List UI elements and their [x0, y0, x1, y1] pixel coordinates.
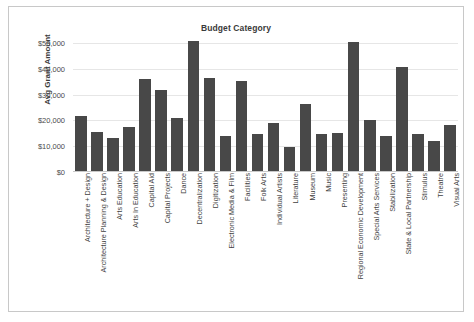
bar-series [73, 43, 458, 172]
x-tick-label-text: Architecture Planning & Design [99, 173, 108, 272]
y-tick-label: $0 [57, 168, 65, 177]
bar[interactable] [236, 81, 248, 172]
bar[interactable] [396, 67, 408, 172]
x-tick-label-text: Decentralization [195, 173, 204, 225]
x-tick-label: State & Local Partnership [404, 173, 413, 255]
bar[interactable] [204, 78, 216, 172]
x-tick-label-text: Regional Economic Development [356, 173, 365, 279]
bar-slot[interactable] [314, 43, 330, 172]
bar-slot[interactable] [410, 43, 426, 172]
x-tick-label: Special Arts Services [372, 173, 381, 241]
x-tick-label: Facilities [243, 173, 252, 201]
x-tick-label: Digitization [211, 173, 220, 208]
bar-slot[interactable] [89, 43, 105, 172]
x-tick-label-text: Capital Projects [163, 173, 172, 223]
bar-slot[interactable] [153, 43, 169, 172]
x-tick-label-text: Literature [291, 173, 300, 203]
plot-area [73, 43, 458, 172]
bar-slot[interactable] [330, 43, 346, 172]
x-tick-label-text: Electronic Media & Film [227, 173, 236, 249]
bar[interactable] [428, 141, 440, 172]
bar[interactable] [332, 133, 344, 172]
y-tick-label: $40,000 [38, 64, 65, 73]
bar-slot[interactable] [233, 43, 249, 172]
bar[interactable] [91, 132, 103, 172]
bar-slot[interactable] [426, 43, 442, 172]
x-tick-label: Museum [308, 173, 317, 201]
bar[interactable] [139, 79, 151, 172]
x-tick-label-text: Stimulus [420, 173, 429, 201]
bar-slot[interactable] [121, 43, 137, 172]
x-tick-label: Arts Education [115, 173, 124, 220]
x-tick-label-text: Stabilization [388, 173, 397, 212]
bar-slot[interactable] [378, 43, 394, 172]
x-tick-label-text: Capital Aid [147, 173, 156, 207]
x-tick-label-text: Arts In Education [131, 173, 140, 228]
bar[interactable] [364, 120, 376, 172]
x-tick-label-text: Theatre [436, 173, 445, 198]
bar-slot[interactable] [169, 43, 185, 172]
bar[interactable] [300, 104, 312, 172]
bar[interactable] [380, 136, 392, 172]
x-tick-label: Presenting [340, 173, 349, 207]
x-tick-label-text: Folk Arts [259, 173, 268, 201]
bar-slot[interactable] [362, 43, 378, 172]
x-axis-line [73, 171, 458, 172]
x-tick-label: Architecture + Design [83, 173, 92, 242]
bar[interactable] [444, 125, 456, 172]
bar-slot[interactable] [185, 43, 201, 172]
bar[interactable] [284, 147, 296, 172]
x-tick-label: Capital Projects [163, 173, 172, 223]
bar[interactable] [220, 136, 232, 172]
x-tick-label: Regional Economic Development [356, 173, 365, 279]
x-tick-label-text: Digitization [211, 173, 220, 208]
x-tick-label: Dance [179, 173, 188, 194]
bar[interactable] [268, 123, 280, 172]
x-tick-label: Stimulus [420, 173, 429, 201]
bar-slot[interactable] [137, 43, 153, 172]
x-tick-label: Theatre [436, 173, 445, 198]
x-tick-label-text: Museum [308, 173, 317, 201]
x-tick-label-text: Dance [179, 173, 188, 194]
bar[interactable] [123, 127, 135, 172]
y-axis-tick-labels: $0$10,000$20,000$30,000$40,000$50,000 [9, 43, 69, 172]
bar-slot[interactable] [442, 43, 458, 172]
x-tick-label: Individual Artists [275, 173, 284, 225]
chart-title: Budget Category [9, 23, 463, 33]
y-tick-label: $50,000 [38, 39, 65, 48]
x-tick-label-text: State & Local Partnership [404, 173, 413, 255]
bar[interactable] [171, 118, 183, 172]
bar-slot[interactable] [249, 43, 265, 172]
x-tick-label: Stabilization [388, 173, 397, 212]
bar[interactable] [316, 134, 328, 172]
bar-slot[interactable] [105, 43, 121, 172]
x-tick-label-text: Architecture + Design [83, 173, 92, 242]
bar-slot[interactable] [217, 43, 233, 172]
bar-slot[interactable] [298, 43, 314, 172]
chart-frame: Budget Category Avg Grant Amount $0$10,0… [8, 6, 464, 312]
x-tick-label: Electronic Media & Film [227, 173, 236, 249]
x-tick-label: Architecture Planning & Design [99, 173, 108, 272]
x-tick-label: Decentralization [195, 173, 204, 225]
x-tick-label-text: Special Arts Services [372, 173, 381, 241]
bar[interactable] [412, 134, 424, 172]
x-axis-tick-labels: Architecture + DesignArchitecture Planni… [73, 173, 458, 303]
bar[interactable] [188, 41, 200, 172]
bar-slot[interactable] [282, 43, 298, 172]
x-tick-label-text: Presenting [340, 173, 349, 207]
x-tick-label: Music [324, 173, 333, 192]
bar-slot[interactable] [73, 43, 89, 172]
x-tick-label: Visual Arts [452, 173, 461, 207]
x-tick-label-text: Arts Education [115, 173, 124, 220]
bar[interactable] [155, 90, 167, 172]
bar[interactable] [75, 116, 87, 172]
y-tick-label: $30,000 [38, 90, 65, 99]
bar-slot[interactable] [346, 43, 362, 172]
bar[interactable] [107, 138, 119, 172]
x-tick-label-text: Facilities [243, 173, 252, 201]
bar[interactable] [348, 42, 360, 172]
bar[interactable] [252, 134, 264, 172]
bar-slot[interactable] [394, 43, 410, 172]
bar-slot[interactable] [201, 43, 217, 172]
bar-slot[interactable] [266, 43, 282, 172]
